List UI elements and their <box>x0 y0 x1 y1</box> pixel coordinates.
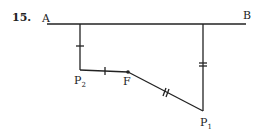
segment-p2-f <box>80 70 128 72</box>
geometry-diagram <box>0 0 260 129</box>
point-f <box>126 70 130 74</box>
segment-f-p1 <box>128 72 203 111</box>
